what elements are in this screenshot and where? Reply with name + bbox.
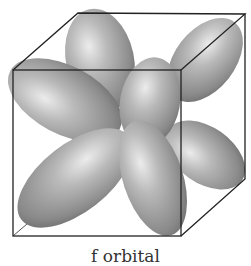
figure-caption: f orbital: [0, 246, 251, 266]
